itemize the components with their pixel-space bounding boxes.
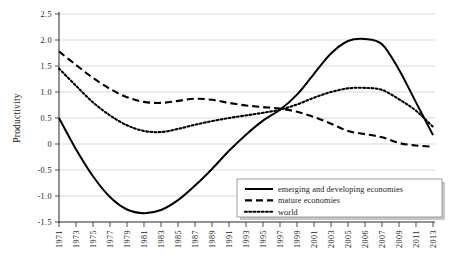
x-tick-label: 2013: [429, 230, 438, 248]
y-tick-labels: 2.52.01.51.00.50-0.5-1.0-1.5: [37, 10, 52, 227]
x-tick-label: 2011: [412, 230, 421, 248]
y-tick-label: -0.5: [37, 166, 52, 175]
x-tick-label: 2007: [378, 230, 387, 248]
legend-label: emerging and developing economies: [278, 185, 403, 194]
x-tick-label: 1985: [174, 230, 183, 248]
x-tick-label: 1989: [208, 230, 217, 248]
series-line-dotted: [59, 69, 433, 133]
x-tick-label: 1991: [225, 230, 234, 248]
y-tick-marks: [55, 14, 59, 222]
x-tick-label: 1981: [140, 230, 149, 248]
x-tick-labels: 1971197319751977197919811983198519871989…: [55, 230, 438, 248]
x-tick-label: 1973: [72, 230, 81, 248]
x-tick-label: 2009: [395, 230, 404, 248]
x-tick-label: 1971: [55, 230, 64, 248]
y-tick-label: 1.0: [41, 88, 52, 97]
productivity-line-chart: 2.52.01.51.00.50-0.5-1.0-1.5 19711973197…: [0, 0, 449, 263]
legend-label: world: [278, 208, 299, 217]
y-tick-label: 2.0: [41, 36, 52, 45]
x-tick-marks: [59, 222, 433, 227]
x-tick-label: 1983: [157, 230, 166, 248]
legend-label: mature economies: [278, 196, 340, 205]
x-tick-label: 2005: [344, 230, 353, 248]
x-tick-label: 1987: [191, 230, 200, 248]
y-tick-label: 0.5: [41, 114, 52, 123]
y-tick-label: 0: [48, 140, 53, 149]
x-tick-label: 1999: [293, 230, 302, 248]
legend: emerging and developing economiesmature …: [237, 179, 445, 220]
x-tick-label: 1975: [89, 230, 98, 248]
x-tick-label: 2001: [310, 230, 319, 248]
y-tick-label: 2.5: [41, 10, 52, 19]
chart-svg: 2.52.01.51.00.50-0.5-1.0-1.5 19711973197…: [0, 0, 449, 263]
y-axis-title: Productivity: [12, 93, 22, 142]
x-tick-label: 1997: [276, 230, 285, 248]
x-tick-label: 2006: [361, 230, 370, 248]
x-tick-label: 2003: [327, 230, 336, 248]
y-tick-label: -1.5: [37, 218, 52, 227]
x-tick-label: 1995: [259, 230, 268, 248]
x-tick-label: 1979: [123, 230, 132, 248]
x-tick-label: 1977: [106, 230, 115, 248]
x-tick-label: 1993: [242, 230, 251, 248]
y-tick-label: -1.0: [37, 192, 52, 201]
y-tick-label: 1.5: [41, 62, 52, 71]
